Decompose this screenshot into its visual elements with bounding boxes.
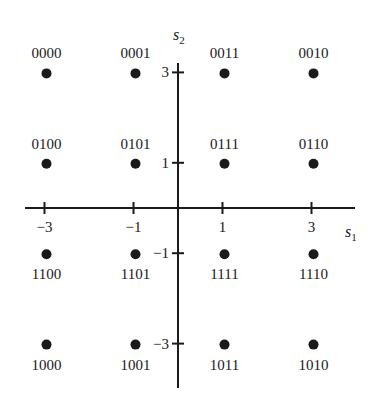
x-tick-label: −3 xyxy=(37,219,53,235)
point-dot xyxy=(42,159,52,169)
x-ticks: −3−113 xyxy=(37,202,316,235)
constellation-point: 0111 xyxy=(210,136,239,169)
point-dot xyxy=(42,249,52,259)
point-dot xyxy=(309,340,319,350)
point-dot xyxy=(131,68,141,78)
constellation-point: 1010 xyxy=(299,340,329,373)
point-label: 0000 xyxy=(32,45,62,61)
point-dot xyxy=(220,340,230,350)
point-dot xyxy=(309,68,319,78)
point-dot xyxy=(220,68,230,78)
x-tick-label: 3 xyxy=(308,219,316,235)
point-label: 1110 xyxy=(299,266,328,282)
x-axis-label: s1 xyxy=(345,223,357,243)
point-label: 1111 xyxy=(210,266,238,282)
y-axis-label: s2 xyxy=(173,26,185,46)
constellation-point: 1100 xyxy=(32,249,61,282)
point-dot xyxy=(309,249,319,259)
constellation-diagram: s1 s2 −3−113 31−1−3 00000001001100100100… xyxy=(0,0,377,410)
y-tick-label: 3 xyxy=(162,64,170,80)
constellation-point: 1111 xyxy=(210,249,238,282)
constellation-point: 0100 xyxy=(32,136,62,169)
x-tick-label: 1 xyxy=(219,219,227,235)
point-label: 0110 xyxy=(299,136,328,152)
point-dot xyxy=(220,159,230,169)
constellation-point: 1001 xyxy=(121,340,151,373)
x-tick-label: −1 xyxy=(126,219,142,235)
constellation-point: 0000 xyxy=(32,45,62,78)
point-dot xyxy=(220,249,230,259)
point-label: 0101 xyxy=(121,136,151,152)
point-dot xyxy=(131,159,141,169)
point-label: 1000 xyxy=(32,357,62,373)
point-label: 1100 xyxy=(32,266,61,282)
point-label: 1011 xyxy=(210,357,239,373)
constellation-point: 1110 xyxy=(299,249,328,282)
point-label: 0011 xyxy=(210,45,239,61)
y-tick-label: −3 xyxy=(153,336,169,352)
point-dot xyxy=(42,340,52,350)
point-dot xyxy=(309,159,319,169)
y-tick-label: 1 xyxy=(162,155,170,171)
point-label: 0010 xyxy=(299,45,329,61)
constellation-point: 0010 xyxy=(299,45,329,78)
constellation-point: 0110 xyxy=(299,136,328,169)
constellation-point: 1101 xyxy=(121,249,150,282)
point-label: 1001 xyxy=(121,357,151,373)
point-label: 0100 xyxy=(32,136,62,152)
point-dot xyxy=(42,68,52,78)
constellation-point: 0101 xyxy=(121,136,151,169)
constellation-point: 0001 xyxy=(121,45,151,78)
constellation-point: 1011 xyxy=(210,340,239,373)
y-tick-label: −1 xyxy=(153,245,169,261)
constellation-point: 1000 xyxy=(32,340,62,373)
point-label: 0111 xyxy=(210,136,239,152)
constellation-point: 0011 xyxy=(210,45,239,78)
point-label: 1101 xyxy=(121,266,150,282)
point-label: 1010 xyxy=(299,357,329,373)
point-dot xyxy=(131,249,141,259)
point-dot xyxy=(131,340,141,350)
point-label: 0001 xyxy=(121,45,151,61)
